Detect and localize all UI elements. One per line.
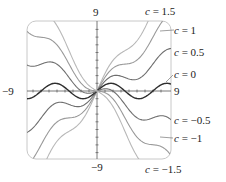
legend-c-1: c = 1: [174, 25, 196, 36]
leader-line: [160, 30, 174, 31]
x-axis-max-label: 9: [174, 86, 180, 97]
y-axis-min-label: −9: [91, 162, 103, 173]
legend-c-neg-1: c = −1: [174, 133, 202, 144]
legend-c-0: c = 0: [174, 69, 196, 80]
legend-c-neg-0.5: c = −0.5: [174, 115, 211, 126]
y-axis-max-label: 9: [93, 7, 99, 18]
legend-c-1.5: c = 1.5: [145, 6, 175, 17]
legend-c-0.5: c = 0.5: [174, 47, 204, 58]
x-axis-min-label: −9: [2, 86, 14, 97]
leader-line: [166, 75, 173, 82]
legend-c-neg-1.5: c = −1.5: [145, 164, 182, 175]
